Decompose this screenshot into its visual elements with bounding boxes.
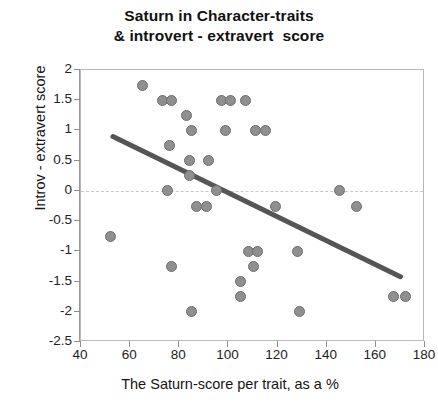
y-axis-tick — [74, 190, 80, 191]
data-point — [351, 201, 362, 212]
x-axis-tick-label: 140 — [304, 347, 348, 363]
y-axis-tick — [74, 281, 80, 282]
y-axis-tick — [74, 311, 80, 312]
data-point — [334, 185, 345, 196]
data-point — [400, 291, 411, 302]
x-axis-title: The Saturn-score per trait, as a % — [30, 376, 430, 392]
plot-inner — [81, 70, 423, 340]
data-point — [137, 80, 148, 91]
x-axis-tick-label: 120 — [255, 347, 299, 363]
x-axis-tick-label: 60 — [107, 347, 151, 363]
y-axis-tick — [74, 160, 80, 161]
y-axis-tick — [74, 220, 80, 221]
y-axis-title: Introv - extravert score — [32, 13, 48, 263]
y-axis-tick — [74, 99, 80, 100]
data-point — [184, 170, 195, 181]
data-point — [162, 185, 173, 196]
data-point — [240, 95, 251, 106]
data-point — [181, 110, 192, 121]
trendline — [81, 70, 425, 342]
data-point — [211, 185, 222, 196]
chart-figure: Saturn in Character-traits & introvert -… — [0, 0, 438, 409]
data-point — [105, 231, 116, 242]
data-point — [184, 155, 195, 166]
y-axis-tick — [74, 129, 80, 130]
y-axis-tick — [74, 69, 80, 70]
data-point — [201, 201, 212, 212]
data-point — [260, 125, 271, 136]
y-axis-tick — [74, 250, 80, 251]
plot-area — [80, 69, 424, 341]
x-axis-tick-label: 80 — [156, 347, 200, 363]
y-axis-tick-label: -2.5 — [16, 334, 72, 348]
x-axis-tick-label: 40 — [58, 347, 102, 363]
data-point — [164, 140, 175, 151]
y-axis-tick-label: -2 — [16, 304, 72, 318]
data-point — [186, 125, 197, 136]
x-axis-tick-label: 180 — [402, 347, 438, 363]
data-point — [388, 291, 399, 302]
data-point — [292, 246, 303, 257]
x-axis-tick-label: 160 — [353, 347, 397, 363]
y-axis-tick-label: -1.5 — [16, 274, 72, 288]
x-axis-tick-label: 100 — [205, 347, 249, 363]
data-point — [248, 261, 259, 272]
data-point — [270, 201, 281, 212]
